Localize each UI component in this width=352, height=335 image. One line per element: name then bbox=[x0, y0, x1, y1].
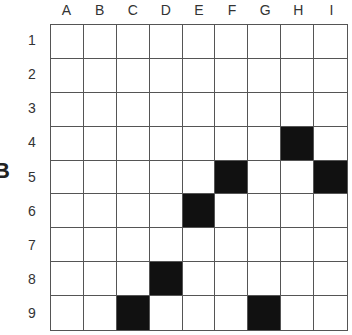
row-label-2: 2 bbox=[20, 66, 44, 82]
cell-g2 bbox=[248, 59, 281, 93]
cell-a6 bbox=[51, 194, 84, 228]
cell-g5 bbox=[248, 161, 281, 195]
cell-b4 bbox=[84, 127, 117, 161]
cell-b2 bbox=[84, 59, 117, 93]
cell-d9 bbox=[150, 296, 183, 330]
cell-f6 bbox=[215, 194, 248, 228]
cell-a5 bbox=[51, 161, 84, 195]
cell-i5 bbox=[314, 161, 347, 195]
row-label-6: 6 bbox=[20, 203, 44, 219]
cell-f1 bbox=[215, 25, 248, 59]
row-label-4: 4 bbox=[20, 134, 44, 150]
cell-i8 bbox=[314, 262, 347, 296]
cell-c4 bbox=[117, 127, 150, 161]
cell-f3 bbox=[215, 93, 248, 127]
column-label-d: D bbox=[149, 2, 182, 18]
cell-h4 bbox=[281, 127, 314, 161]
cell-e9 bbox=[183, 296, 216, 330]
cell-e7 bbox=[183, 228, 216, 262]
cell-d2 bbox=[150, 59, 183, 93]
column-label-f: F bbox=[216, 2, 249, 18]
cell-h8 bbox=[281, 262, 314, 296]
side-mark: B bbox=[0, 158, 10, 184]
cell-a7 bbox=[51, 228, 84, 262]
column-label-e: E bbox=[182, 2, 215, 18]
cell-a3 bbox=[51, 93, 84, 127]
cell-h7 bbox=[281, 228, 314, 262]
cell-c8 bbox=[117, 262, 150, 296]
cell-c9 bbox=[117, 296, 150, 330]
cell-c7 bbox=[117, 228, 150, 262]
cell-i4 bbox=[314, 127, 347, 161]
cell-f2 bbox=[215, 59, 248, 93]
cell-a9 bbox=[51, 296, 84, 330]
cell-e8 bbox=[183, 262, 216, 296]
cell-g9 bbox=[248, 296, 281, 330]
row-label-3: 3 bbox=[20, 100, 44, 116]
cell-h5 bbox=[281, 161, 314, 195]
cell-g7 bbox=[248, 228, 281, 262]
cell-f9 bbox=[215, 296, 248, 330]
cell-d3 bbox=[150, 93, 183, 127]
cell-d6 bbox=[150, 194, 183, 228]
cell-g8 bbox=[248, 262, 281, 296]
cell-b6 bbox=[84, 194, 117, 228]
cell-a8 bbox=[51, 262, 84, 296]
cell-e1 bbox=[183, 25, 216, 59]
cell-a2 bbox=[51, 59, 84, 93]
cell-b5 bbox=[84, 161, 117, 195]
cell-h2 bbox=[281, 59, 314, 93]
column-label-b: B bbox=[83, 2, 116, 18]
cell-i1 bbox=[314, 25, 347, 59]
cell-f5 bbox=[215, 161, 248, 195]
cell-e4 bbox=[183, 127, 216, 161]
column-label-i: I bbox=[315, 2, 348, 18]
column-label-h: H bbox=[282, 2, 315, 18]
cell-g1 bbox=[248, 25, 281, 59]
row-label-8: 8 bbox=[20, 271, 44, 287]
cell-d1 bbox=[150, 25, 183, 59]
row-label-9: 9 bbox=[20, 305, 44, 321]
row-label-1: 1 bbox=[20, 32, 44, 48]
cell-g6 bbox=[248, 194, 281, 228]
column-label-c: C bbox=[116, 2, 149, 18]
cell-b1 bbox=[84, 25, 117, 59]
cell-b3 bbox=[84, 93, 117, 127]
cell-c5 bbox=[117, 161, 150, 195]
cell-i3 bbox=[314, 93, 347, 127]
cell-f7 bbox=[215, 228, 248, 262]
cell-c2 bbox=[117, 59, 150, 93]
cell-a1 bbox=[51, 25, 84, 59]
cell-h6 bbox=[281, 194, 314, 228]
cell-h3 bbox=[281, 93, 314, 127]
cell-a4 bbox=[51, 127, 84, 161]
cell-b8 bbox=[84, 262, 117, 296]
cell-h9 bbox=[281, 296, 314, 330]
column-label-a: A bbox=[50, 2, 83, 18]
cell-d5 bbox=[150, 161, 183, 195]
cell-i6 bbox=[314, 194, 347, 228]
cell-g4 bbox=[248, 127, 281, 161]
cell-d4 bbox=[150, 127, 183, 161]
cell-b9 bbox=[84, 296, 117, 330]
cell-e6 bbox=[183, 194, 216, 228]
row-label-5: 5 bbox=[20, 169, 44, 185]
cell-b7 bbox=[84, 228, 117, 262]
grid bbox=[50, 24, 348, 331]
cell-e2 bbox=[183, 59, 216, 93]
cell-i2 bbox=[314, 59, 347, 93]
cell-d8 bbox=[150, 262, 183, 296]
cell-d7 bbox=[150, 228, 183, 262]
cell-f8 bbox=[215, 262, 248, 296]
cell-c6 bbox=[117, 194, 150, 228]
cell-i7 bbox=[314, 228, 347, 262]
cell-h1 bbox=[281, 25, 314, 59]
cell-e3 bbox=[183, 93, 216, 127]
cell-g3 bbox=[248, 93, 281, 127]
row-label-7: 7 bbox=[20, 237, 44, 253]
cell-i9 bbox=[314, 296, 347, 330]
cell-f4 bbox=[215, 127, 248, 161]
cell-c3 bbox=[117, 93, 150, 127]
cell-c1 bbox=[117, 25, 150, 59]
column-label-g: G bbox=[249, 2, 282, 18]
